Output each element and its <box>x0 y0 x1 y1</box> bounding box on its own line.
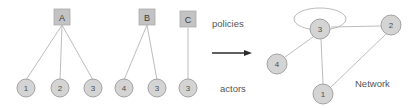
actors-annotation: actors <box>220 83 246 94</box>
actor-node-a1-label: 1 <box>24 84 29 93</box>
actor-node-b3: 3 <box>148 79 166 97</box>
edge-a-3 <box>62 25 93 80</box>
policy-box-c: C <box>180 11 196 27</box>
bipartite-edges <box>26 25 188 80</box>
actor-node-c3: 3 <box>179 79 197 97</box>
policy-box-a-label: A <box>59 13 65 23</box>
policy-box-b-label: B <box>144 13 150 23</box>
policy-box-b: B <box>139 9 155 25</box>
actor-node-b4-label: 4 <box>122 84 127 93</box>
actor-nodes: 1 2 3 4 3 3 <box>17 79 197 97</box>
network-node-1-label: 1 <box>321 90 326 99</box>
actor-node-b3-label: 3 <box>155 84 160 93</box>
actor-node-a1: 1 <box>17 79 35 97</box>
policy-box-a: A <box>54 9 70 25</box>
network-node-3-label: 3 <box>318 25 323 34</box>
edge-3-4 <box>285 37 313 57</box>
edge-b-3 <box>147 25 157 80</box>
network-node-2: 2 <box>381 15 401 35</box>
transform-arrow-icon <box>212 50 252 56</box>
actor-node-b4: 4 <box>115 79 133 97</box>
network-edges <box>285 8 386 87</box>
policy-boxes: A B C <box>54 9 196 27</box>
transform-arrow-head <box>244 50 252 56</box>
actor-node-a2-label: 2 <box>58 84 63 93</box>
bipartite-to-network-diagram: A B C 1 2 3 <box>0 0 414 108</box>
diagram-canvas: A B C 1 2 3 <box>0 0 414 108</box>
network-annotation: Network <box>355 78 390 89</box>
edge-b-4 <box>124 25 147 80</box>
network-node-2-label: 2 <box>389 21 394 30</box>
policy-box-c-label: C <box>185 15 192 25</box>
edge-a-1 <box>26 25 62 80</box>
actor-node-a3: 3 <box>84 79 102 97</box>
edge-3-2 <box>331 26 381 27</box>
actor-node-a2: 2 <box>51 79 69 97</box>
network-node-1: 1 <box>313 84 333 104</box>
actor-node-a3-label: 3 <box>91 84 96 93</box>
network-node-3: 3 <box>310 19 330 39</box>
edge-a-2 <box>60 25 62 80</box>
actor-node-c3-label: 3 <box>186 84 191 93</box>
network-node-4: 4 <box>267 54 287 74</box>
edge-3-1 <box>321 39 323 84</box>
network-node-4-label: 4 <box>275 60 280 69</box>
policies-annotation: policies <box>212 18 244 29</box>
